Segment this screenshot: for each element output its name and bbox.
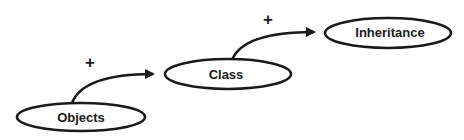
edge-label-plus: + [85, 53, 95, 72]
edge-label-plus: + [263, 10, 273, 29]
concept-diagram: + + Objects Class Inheritance [0, 0, 464, 140]
node-label: Class [209, 67, 244, 82]
arrow-icon [232, 32, 314, 60]
edge-class-to-inheritance: + [232, 10, 314, 60]
arrow-icon [72, 74, 153, 103]
node-label: Objects [57, 110, 105, 125]
edge-objects-to-class: + [72, 53, 153, 103]
node-objects: Objects [17, 103, 145, 131]
node-class: Class [165, 59, 291, 89]
node-inheritance: Inheritance [325, 18, 451, 48]
node-label: Inheritance [355, 25, 424, 40]
